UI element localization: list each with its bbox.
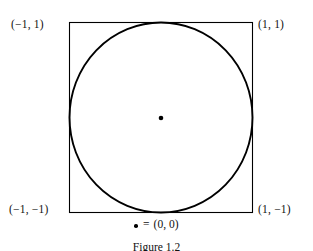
figure-container: (−1, 1) (1, 1) (−1, −1) (1, −1) =(0, 0) … — [0, 0, 313, 251]
corner-label-top-right: (1, 1) — [258, 18, 284, 31]
corner-label-bottom-right: (1, −1) — [258, 203, 291, 216]
center-point-dot — [159, 116, 164, 121]
corner-label-top-left: (−1, 1) — [11, 18, 44, 31]
legend-value: (0, 0) — [154, 218, 179, 230]
corner-label-bottom-left: (−1, −1) — [9, 203, 48, 216]
legend: =(0, 0) — [0, 218, 313, 231]
legend-equals-sign: = — [143, 218, 150, 230]
figure-caption: Figure 1.2 — [0, 241, 313, 251]
legend-dot-icon — [134, 224, 138, 228]
